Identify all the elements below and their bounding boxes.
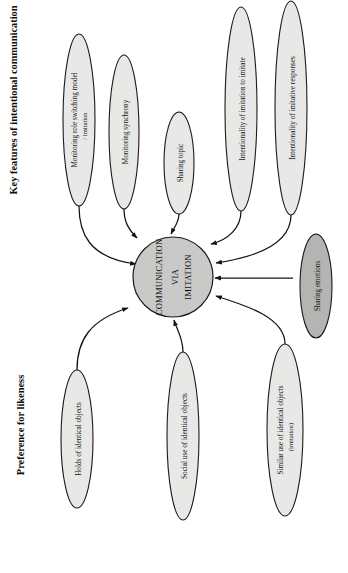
node-intentionality-of-imitative-responses[interactable]: Intentionality of imitative responses — [275, 1, 307, 215]
node-holds-label: Holds of identical objects — [75, 402, 83, 476]
svg-text:Sharing topic: Sharing topic — [177, 144, 185, 183]
hub-node[interactable]: COMMUNICATION VIA IMITATION — [133, 237, 213, 317]
svg-text:/ imitation: / imitation — [81, 112, 88, 140]
node-sharing-emotions-label: Sharing emotions — [314, 261, 322, 312]
node-similar-use-line-1: Similar use of identical objects — [277, 385, 285, 474]
node-intentionality-imitate-label: Intentionality of imitation to imitate — [239, 57, 247, 160]
node-monitoring-role-switching-line-1: Monitoring role switching model — [71, 72, 79, 167]
node-intentionality-of-imitation-to-imitate[interactable]: Intentionality of imitation to imitate — [225, 7, 257, 211]
heading-preference-for-likeness: Preference for likeness — [15, 375, 26, 475]
node-similar-use-line-2: (imitation) — [287, 423, 295, 451]
svg-text:Preference for likeness: Preference for likeness — [15, 375, 26, 475]
svg-text:Holds of identical objects: Holds of identical objects — [75, 402, 83, 476]
svg-text:IMITATION: IMITATION — [183, 254, 193, 300]
node-monitoring-role-switching-line-2: / imitation — [81, 112, 88, 140]
node-monitoring-synchrony[interactable]: Monitoring synchrony — [109, 55, 139, 209]
hub-label-line-1: COMMUNICATION — [154, 238, 164, 315]
node-monitoring-role-switching[interactable]: Monitoring role switching model / imitat… — [63, 34, 95, 206]
node-social-use-label: Social use of identical objects — [181, 393, 189, 479]
svg-text:Intentionality of imitative re: Intentionality of imitative responses — [289, 56, 297, 160]
svg-text:COMMUNICATION: COMMUNICATION — [154, 238, 164, 315]
node-intentionality-responses-label: Intentionality of imitative responses — [289, 56, 297, 160]
svg-text:VIA: VIA — [170, 268, 180, 284]
svg-text:Sharing emotions: Sharing emotions — [314, 261, 322, 312]
hub-label-line-3: IMITATION — [183, 254, 193, 300]
node-similar-use-shape[interactable] — [267, 344, 303, 516]
node-monitoring-role-switching-shape[interactable] — [63, 34, 95, 206]
heading-intentional-communication: Key features of intentional communicatio… — [8, 5, 19, 194]
node-sharing-topic[interactable]: Sharing topic — [164, 112, 194, 214]
heading-intentional-line-1: Key features of intentional communicatio… — [8, 5, 19, 194]
node-similar-use-of-identical-objects[interactable]: Similar use of identical objects (imitat… — [267, 344, 303, 516]
svg-text:Key features of intentional co: Key features of intentional communicatio… — [8, 5, 19, 194]
heading-likeness-line-1: Preference for likeness — [15, 375, 26, 475]
svg-text:Intentionality of imitation to: Intentionality of imitation to imitate — [239, 57, 247, 160]
node-sharing-emotions[interactable]: Sharing emotions — [300, 234, 332, 338]
node-monitoring-synchrony-label: Monitoring synchrony — [122, 99, 130, 164]
svg-text:Monitoring synchrony: Monitoring synchrony — [122, 99, 130, 164]
node-social-use-of-identical-objects[interactable]: Social use of identical objects — [167, 352, 199, 520]
node-holds-of-identical-objects[interactable]: Holds of identical objects — [61, 370, 93, 508]
svg-text:Monitoring role switching mode: Monitoring role switching model — [71, 72, 79, 167]
node-sharing-topic-label: Sharing topic — [177, 144, 185, 183]
hub-label-line-2: VIA — [170, 268, 180, 284]
svg-text:Similar use of identical objec: Similar use of identical objects — [277, 385, 285, 474]
diagram-figure: Key features of intentional communicatio… — [0, 0, 348, 573]
svg-text:(imitation): (imitation) — [287, 423, 295, 451]
svg-text:Social use of identical object: Social use of identical objects — [181, 393, 189, 479]
